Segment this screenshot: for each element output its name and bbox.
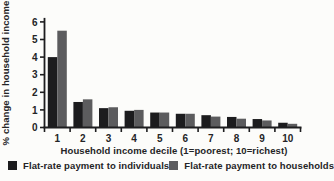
y-tick-label: 3: [32, 69, 38, 80]
bar-chart: % change in household income 01234561234…: [0, 0, 328, 157]
x-tick-label: 7: [208, 133, 214, 144]
bar-series1-decile-3: [99, 108, 109, 127]
bar-series2-decile-3: [109, 107, 119, 127]
x-tick-label: 5: [157, 133, 163, 144]
x-axis-title: Household income decile (1=poorest; 10=r…: [61, 145, 288, 156]
bar-series2-decile-5: [160, 113, 170, 128]
legend-swatch-households-icon: [169, 161, 178, 170]
x-tick-label: 3: [106, 133, 112, 144]
bar-series2-decile-4: [134, 110, 144, 128]
bar-series1-decile-7: [201, 115, 211, 127]
x-tick-label: 2: [80, 133, 86, 144]
x-tick-label: 10: [282, 133, 294, 144]
bar-series2-decile-2: [83, 99, 93, 127]
bar-series1-decile-9: [253, 119, 263, 127]
legend-label-households: Flat-rate payment to households: [184, 160, 334, 171]
legend-swatch-individuals-icon: [8, 161, 17, 170]
y-tick-label: 1: [32, 105, 38, 116]
legend: Flat-rate payment to individuals Flat-ra…: [8, 160, 322, 171]
bar-series2-decile-6: [185, 114, 195, 128]
bar-series1-decile-6: [176, 114, 186, 128]
y-tick-label: 6: [32, 17, 38, 28]
legend-item-households: Flat-rate payment to households: [169, 160, 334, 171]
bar-series1-decile-2: [73, 102, 83, 128]
x-tick-label: 8: [234, 133, 240, 144]
y-tick-label: 5: [32, 34, 38, 45]
x-tick-label: 6: [183, 133, 189, 144]
bar-series1-decile-5: [150, 113, 160, 128]
bar-series1-decile-8: [227, 117, 237, 128]
bar-series2-decile-7: [211, 117, 221, 128]
legend-item-individuals: Flat-rate payment to individuals: [8, 160, 169, 171]
y-tick-label: 0: [32, 122, 38, 133]
x-tick-label: 9: [259, 133, 265, 144]
legend-label-individuals: Flat-rate payment to individuals: [23, 160, 169, 171]
x-tick-label: 4: [131, 133, 137, 144]
bar-series1-decile-1: [48, 57, 58, 127]
y-tick-label: 2: [32, 87, 38, 98]
bar-series2-decile-9: [262, 120, 272, 127]
bar-series2-decile-1: [57, 31, 67, 128]
bar-series2-decile-8: [237, 119, 247, 128]
y-axis-title: % change in household income: [0, 1, 11, 146]
x-tick-label: 1: [55, 133, 61, 144]
y-tick-label: 4: [32, 52, 38, 63]
bars-group: [48, 31, 297, 128]
bar-series1-decile-4: [125, 111, 135, 128]
